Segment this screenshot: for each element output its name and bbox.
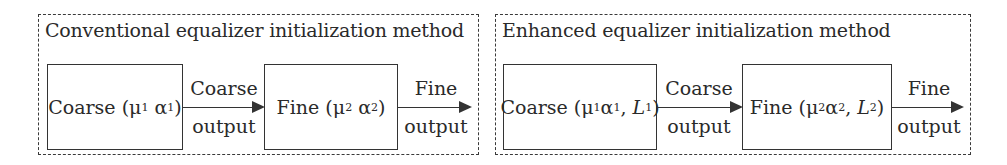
coarse-output-arrow — [183, 107, 263, 108]
coarse-output-label-top: Coarse — [183, 77, 265, 99]
panel-title: Conventional equalizer initialization me… — [45, 19, 464, 41]
fine-output-arrow — [892, 107, 962, 108]
coarse-equalizer-block: Coarse (μ1 α1) — [47, 64, 183, 150]
fine-output-label-top: Fine — [398, 77, 474, 99]
enhanced-method-panel: Enhanced equalizer initialization method… — [495, 14, 971, 155]
coarse-output-label-top: Coarse — [657, 77, 741, 99]
coarse-output-arrow — [657, 107, 741, 108]
fine-output-label-top: Fine — [892, 77, 966, 99]
panel-title: Enhanced equalizer initialization method — [502, 19, 891, 41]
conventional-method-panel: Conventional equalizer initialization me… — [38, 14, 479, 155]
coarse-equalizer-block: Coarse (μ1α1, L1) — [503, 64, 657, 150]
fine-equalizer-block: Fine (μ2 α2) — [264, 64, 398, 150]
fine-equalizer-block: Fine (μ2α2, L2) — [742, 64, 892, 150]
fine-output-label-bottom: output — [892, 115, 966, 137]
fine-output-arrow — [398, 107, 470, 108]
coarse-output-label-bottom: output — [183, 115, 265, 137]
coarse-output-label-bottom: output — [657, 115, 741, 137]
fine-output-label-bottom: output — [398, 115, 474, 137]
